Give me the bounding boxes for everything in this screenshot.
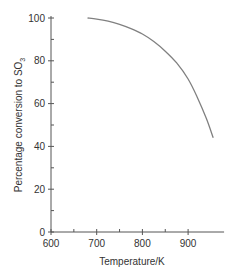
x-tick-label: 800 [134,238,151,249]
chart: 020406080100600700800900 Temperature/K P… [0,0,229,279]
y-tick-label: 20 [34,184,46,195]
y-tick-label: 100 [28,13,45,24]
y-tick-label: 0 [39,227,45,238]
x-tick-label: 600 [43,238,60,249]
x-tick-label: 900 [180,238,197,249]
x-tick-label: 700 [88,238,105,249]
y-tick-label: 40 [34,141,46,152]
x-axis-title: Temperature/K [99,256,165,267]
axes: 020406080100600700800900 [28,13,224,250]
y-axis-title: Percentage conversion to SO3 [13,58,26,193]
y-tick-label: 60 [34,98,46,109]
conversion-curve [88,18,214,138]
y-tick-label: 80 [34,55,46,66]
